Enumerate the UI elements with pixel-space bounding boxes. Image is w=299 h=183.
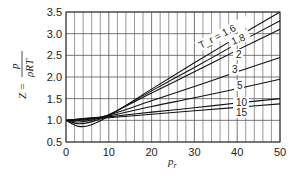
y-tick: 0.5 <box>47 136 62 148</box>
y-tick: 3.5 <box>47 6 62 18</box>
ylabel-numerator: p <box>8 63 20 70</box>
y-tick: 1.0 <box>47 114 62 126</box>
xlabel: pr <box>167 155 178 170</box>
x-tick: 10 <box>103 146 115 158</box>
y-tick: 2.5 <box>47 49 62 61</box>
x-tick: 40 <box>231 146 243 158</box>
curve-label: 3 <box>232 64 238 75</box>
curve-label: 5 <box>237 80 243 91</box>
x-tick: 30 <box>188 146 200 158</box>
ylabel-denominator: ρRT <box>23 58 35 78</box>
axis-ticks: 010203040500.51.01.52.02.53.03.5 <box>47 6 286 158</box>
curve-label: 2 <box>236 49 242 60</box>
x-tick: 0 <box>63 146 69 158</box>
curve-label: 15 <box>236 107 248 118</box>
compressibility-chart: T_r = 1.61.82351015 010203040500.51.01.5… <box>0 0 299 183</box>
y-axis-label: Z = p ρRT <box>8 51 35 99</box>
y-tick: 1.5 <box>47 93 62 105</box>
x-tick: 50 <box>274 146 286 158</box>
y-tick: 3.0 <box>47 28 62 40</box>
y-tick: 2.0 <box>47 71 62 83</box>
ylabel-z: Z = <box>16 83 28 99</box>
x-tick: 20 <box>145 146 157 158</box>
